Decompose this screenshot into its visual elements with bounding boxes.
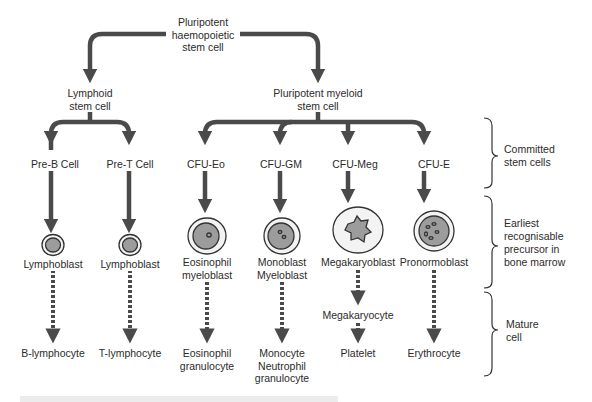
precursor-label-monoblast-myeloblast: MonoblastMyeloblast xyxy=(256,256,308,281)
committed-label-pret: Pre-T Cell xyxy=(105,158,154,171)
precursor-label-lymphoblast-t: Lymphoblast xyxy=(99,258,160,271)
lymphoid-stem-cell-label: Lymphoidstem cell xyxy=(66,87,113,112)
lymphoblast-b-cell-icon xyxy=(42,235,64,256)
precursor-label-pronormoblast: Pronormoblast xyxy=(399,256,469,269)
precursor-label-eosinophil-myeloblast: Eosinophilmyeloblast xyxy=(181,256,233,281)
precursor-label-lymphoblast-b: Lymphoblast xyxy=(22,258,83,271)
mature-label-t-lymphocyte: T-lymphocyte xyxy=(98,347,162,360)
myeloid-split-connector xyxy=(205,122,424,138)
lymphoblast-t-cell-icon xyxy=(119,235,141,256)
committed-label-cfue: CFU-E xyxy=(417,158,451,171)
mature-label-monocyte-neutrophil: MonocyteNeutrophilgranulocyte xyxy=(254,347,310,385)
committed-label-cfueo: CFU-Eo xyxy=(186,158,226,171)
precursor-label-megakaryoblast: Megakaryoblast xyxy=(320,256,396,269)
megakaryoblast-cell-icon xyxy=(333,207,383,253)
monoblast-cell-icon xyxy=(264,218,300,254)
bracket-mature xyxy=(484,292,498,376)
lymphoid-split-connector xyxy=(51,122,129,150)
stage-label-precursor: Earliestrecognisableprecursor inbone mar… xyxy=(504,217,565,269)
committed-label-cfugm: CFU-GM xyxy=(259,158,303,171)
haemopoiesis-diagram xyxy=(0,0,592,402)
intermediate-label-megakaryocyte: Megakaryocyte xyxy=(321,309,394,322)
pronormoblast-cell-icon xyxy=(414,211,454,251)
mature-label-platelet: Platelet xyxy=(339,347,376,360)
root-to-lymphoid-connector xyxy=(90,34,166,76)
footer-bar xyxy=(20,396,338,402)
root-to-myeloid-connector xyxy=(240,34,318,76)
mature-label-eosinophil-granulocyte: Eosinophilgranulocyte xyxy=(179,347,235,372)
stage-label-mature: Maturecell xyxy=(506,318,539,344)
eosinophil-myeloblast-cell-icon xyxy=(188,218,226,254)
root-stem-cell-label: Pluripotenthaemopoieticstem cell xyxy=(171,16,235,54)
stage-label-committed: Committedstem cells xyxy=(504,143,555,169)
bracket-committed xyxy=(484,118,498,188)
myeloid-stem-cell-label: Pluripotent myeloidstem cell xyxy=(272,87,363,112)
mature-label-erythrocyte: Erythrocyte xyxy=(406,347,461,360)
committed-label-preb: Pre-B Cell xyxy=(30,158,80,171)
bracket-precursor xyxy=(484,196,498,288)
mature-label-b-lymphocyte: B-lymphocyte xyxy=(20,347,86,360)
committed-label-cfumeg: CFU-Meg xyxy=(331,158,379,171)
